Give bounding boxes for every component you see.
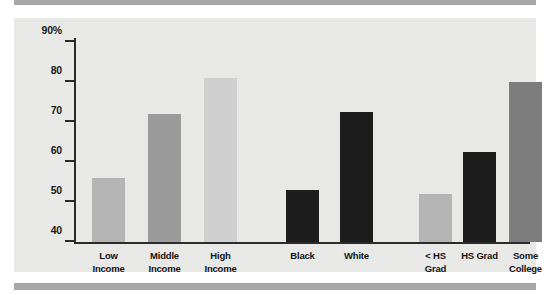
bar-low-income	[92, 178, 125, 242]
x-label-line-1: Some	[498, 250, 550, 263]
bar-some-college	[509, 82, 542, 242]
x-label-line-2: College	[498, 263, 550, 276]
x-label-high-income: HighIncome	[193, 250, 248, 275]
x-label-line-1: High	[193, 250, 248, 263]
x-label-line-1: Low	[81, 250, 136, 263]
y-tick-label-40: 40	[28, 224, 62, 236]
y-tick-label-80: 80	[28, 64, 62, 76]
bar-hs-grad	[463, 152, 496, 242]
chart-panel: 90%8070605040 LowIncomeMiddleIncomeHighI…	[14, 18, 536, 272]
x-label-line-1: Black	[275, 250, 330, 263]
bar-middle-income	[148, 114, 181, 242]
y-tick-label-90: 90%	[28, 24, 62, 36]
bar-black	[286, 190, 319, 242]
x-label-black: Black	[275, 250, 330, 263]
y-tick-50	[65, 200, 74, 202]
x-axis	[74, 242, 530, 244]
x-label-line-2: Income	[137, 263, 192, 276]
x-label-line-2: Income	[193, 263, 248, 276]
top-rule	[14, 0, 536, 5]
x-label-low-income: LowIncome	[81, 250, 136, 275]
x-label-some-college: SomeCollege	[498, 250, 550, 275]
y-tick-label-60: 60	[28, 144, 62, 156]
bar-high-income	[204, 78, 237, 242]
y-axis	[74, 38, 76, 244]
x-label-middle-income: MiddleIncome	[137, 250, 192, 275]
x-label-line-2: Grad	[408, 263, 463, 276]
bottom-rule	[14, 283, 536, 290]
x-label-line-2: Income	[81, 263, 136, 276]
y-tick-90	[65, 40, 74, 42]
y-tick-40	[65, 240, 74, 242]
x-label-line-1: White	[329, 250, 384, 263]
y-tick-label-70: 70	[28, 104, 62, 116]
y-tick-80	[65, 80, 74, 82]
y-tick-70	[65, 120, 74, 122]
x-label-line-1: Middle	[137, 250, 192, 263]
bar-white	[340, 112, 373, 242]
y-tick-label-50: 50	[28, 184, 62, 196]
y-tick-60	[65, 160, 74, 162]
x-label-white: White	[329, 250, 384, 263]
bar-hs-grad	[419, 194, 452, 242]
plot-area: 90%8070605040 LowIncomeMiddleIncomeHighI…	[74, 38, 530, 244]
